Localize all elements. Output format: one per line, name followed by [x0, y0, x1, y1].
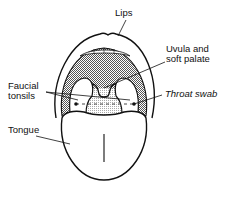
label-throat-swab: Throat swab	[165, 89, 217, 99]
label-uvula-line2: soft palate	[166, 54, 210, 64]
label-tongue: Tongue	[8, 125, 39, 135]
lips-leader	[118, 20, 126, 36]
label-lips: Lips	[115, 8, 132, 18]
mouth-diagram	[0, 0, 225, 204]
label-faucial-line2: tonsils	[8, 91, 35, 101]
left-swab-point	[74, 102, 78, 106]
